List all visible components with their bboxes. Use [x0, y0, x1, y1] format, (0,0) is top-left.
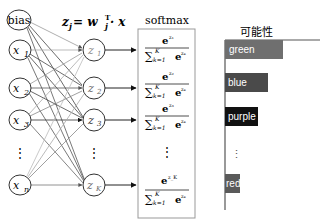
- svg-text:3: 3: [24, 120, 29, 129]
- svg-text:bias: bias: [8, 14, 31, 27]
- input-node-x2: x 2: [9, 78, 31, 98]
- svg-text:1: 1: [24, 50, 29, 59]
- svg-text:∑: ∑: [145, 86, 153, 99]
- bar-green: green: [225, 40, 283, 59]
- svg-text:x: x: [13, 114, 20, 127]
- svg-text:zₖ: zₖ: [181, 118, 186, 124]
- output-node-zK: z K: [83, 174, 105, 196]
- svg-text:e: e: [161, 175, 167, 186]
- svg-text:z: z: [87, 82, 94, 95]
- svg-text:purple: purple: [228, 111, 256, 122]
- svg-text:z₃: z₃: [169, 102, 174, 108]
- input-ellipsis: ⋮: [14, 146, 26, 160]
- softmax-diagram: bias x 1 x 2 x 3 ⋮ x n z j = w T j · x: [0, 0, 328, 223]
- svg-text:K: K: [154, 115, 160, 122]
- svg-text:2: 2: [23, 88, 29, 97]
- svg-text:3: 3: [97, 120, 102, 128]
- svg-text:x: x: [13, 179, 20, 192]
- output-node-z3: z 3: [83, 109, 105, 131]
- bar-blue: blue: [225, 73, 268, 92]
- svg-text:z: z: [87, 114, 94, 127]
- svg-text:n: n: [24, 185, 29, 194]
- output-to-softmax-arrows: [105, 50, 136, 185]
- input-layer: bias x 1 x 2 x 3 ⋮ x n: [7, 10, 31, 195]
- svg-text:green: green: [229, 44, 255, 55]
- connections: [27, 22, 85, 185]
- svg-text:∑: ∑: [145, 50, 153, 63]
- svg-text:e: e: [162, 71, 168, 82]
- chart-ellipsis: ⋮: [231, 148, 242, 161]
- svg-text:x: x: [13, 82, 20, 95]
- softmax-ellipsis: ⋮: [161, 145, 173, 159]
- svg-text:zₖ: zₖ: [181, 193, 186, 199]
- svg-text:= w: = w: [73, 15, 98, 29]
- input-node-x3: x 3: [9, 110, 31, 130]
- svg-text:K: K: [95, 185, 102, 193]
- output-layer: z 1 z 2 z 3 ⋮ z K: [83, 39, 105, 196]
- input-node-x1: x 1: [9, 40, 31, 60]
- svg-text:k=1: k=1: [153, 56, 165, 63]
- formula-label: z j = w T j · x: [61, 13, 126, 31]
- bar-purple: purple: [225, 107, 258, 126]
- bar-red: red: [225, 174, 240, 193]
- svg-text:k=1: k=1: [153, 199, 165, 206]
- svg-text:2: 2: [96, 88, 102, 96]
- svg-text:z₁: z₁: [169, 34, 174, 40]
- svg-text:z: z: [86, 179, 93, 192]
- svg-text:∑: ∑: [145, 193, 153, 206]
- probability-chart: 可能性 green blue purple ⋮ red: [225, 25, 320, 210]
- svg-text:e: e: [162, 35, 168, 46]
- output-ellipsis: ⋮: [88, 146, 100, 160]
- svg-text:k=1: k=1: [153, 92, 165, 99]
- output-node-z1: z 1: [83, 39, 105, 61]
- output-node-z2: z 2: [83, 77, 105, 99]
- svg-text:K: K: [154, 83, 160, 90]
- svg-text:K: K: [154, 47, 160, 54]
- softmax-box: softmax e z₁ ∑ K k=1 e zₖ e z₂ ∑ K k=1 e…: [138, 14, 195, 218]
- svg-text:∑: ∑: [145, 118, 153, 131]
- svg-text:blue: blue: [228, 77, 247, 88]
- svg-text:z_K: z_K: [168, 174, 177, 181]
- svg-text:zₖ: zₖ: [181, 86, 186, 92]
- svg-text:z: z: [87, 44, 94, 57]
- softmax-title: softmax: [145, 14, 190, 27]
- svg-text:zₖ: zₖ: [181, 50, 186, 56]
- svg-text:z₂: z₂: [169, 70, 174, 76]
- svg-text:1: 1: [97, 50, 101, 58]
- svg-text:x: x: [13, 44, 20, 57]
- svg-text:K: K: [154, 190, 160, 197]
- input-node-xn: x n: [9, 175, 31, 195]
- svg-text:k=1: k=1: [153, 124, 165, 131]
- svg-text:red: red: [226, 178, 240, 189]
- svg-text:· x: · x: [110, 15, 126, 29]
- input-node-bias: bias: [7, 10, 31, 30]
- svg-text:e: e: [162, 103, 168, 114]
- chart-title: 可能性: [240, 25, 273, 39]
- svg-text:j: j: [103, 21, 108, 31]
